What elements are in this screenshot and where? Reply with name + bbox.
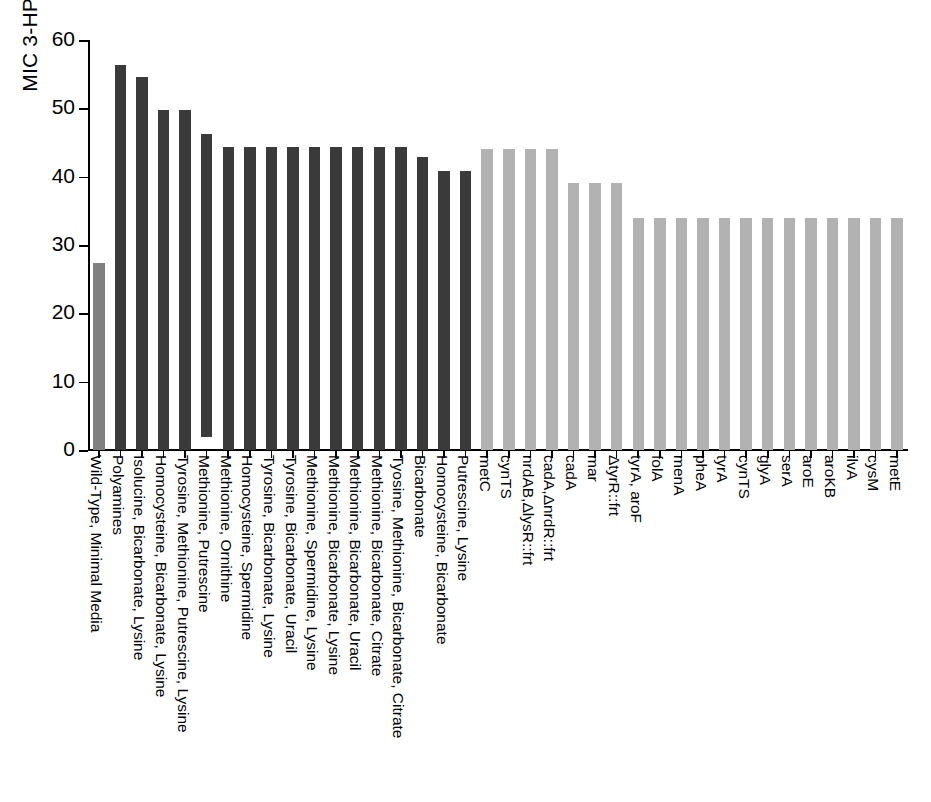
y-tick-label: 10 bbox=[52, 369, 75, 393]
bar bbox=[654, 218, 666, 450]
x-axis-label: tyrA, aroF bbox=[629, 455, 644, 523]
bar bbox=[525, 149, 537, 450]
x-axis-labels: Wild-Type, Minimal MediaPolyaminesIsoluc… bbox=[88, 455, 908, 795]
y-tick-mark bbox=[79, 450, 88, 452]
x-axis-label: Tyrosine, Bicarbonate, Uracil bbox=[284, 455, 299, 653]
y-tick-mark bbox=[79, 382, 88, 384]
bar bbox=[330, 147, 342, 450]
y-tick-0: 0 bbox=[10, 450, 88, 451]
y-tick-40: 40 bbox=[10, 177, 88, 178]
x-axis-label: cysM bbox=[866, 455, 881, 491]
y-tick-mark bbox=[79, 40, 88, 42]
bar bbox=[848, 218, 860, 450]
bar-chart-figure: MIC 3-HP (g/L) 0102030405060 Wild-Type, … bbox=[0, 0, 931, 802]
x-axis-label: Methionine, Ornithine bbox=[219, 455, 234, 602]
x-axis-label: Tyrosine, Bicarbonate, Lysine bbox=[262, 455, 277, 658]
bar bbox=[417, 157, 429, 450]
y-tick-50: 50 bbox=[10, 108, 88, 109]
x-axis-label: pheA bbox=[694, 455, 709, 491]
x-axis-label: ΔtyrR::frt bbox=[607, 455, 622, 516]
bar bbox=[244, 147, 256, 450]
bar bbox=[870, 218, 882, 450]
x-axis-label: tyrA bbox=[715, 455, 730, 483]
x-axis-label: serA bbox=[780, 455, 795, 487]
x-axis-label: mar bbox=[586, 455, 601, 482]
bar bbox=[438, 171, 450, 450]
bar bbox=[827, 218, 839, 450]
bar bbox=[136, 77, 148, 450]
plot-area: 0102030405060 bbox=[88, 40, 908, 450]
x-axis-label: Methionine, Spermidine, Lysine bbox=[305, 455, 320, 671]
x-axis-label: Methionine, Bicarbonate, Citrate bbox=[370, 455, 385, 676]
bar bbox=[719, 218, 731, 450]
bar bbox=[503, 149, 515, 450]
x-axis-label: cynTS bbox=[499, 455, 514, 499]
bar bbox=[460, 171, 472, 450]
x-axis-label: Methionine, Putrescine bbox=[197, 455, 212, 613]
bar bbox=[546, 149, 558, 450]
y-tick-10: 10 bbox=[10, 382, 88, 383]
x-axis-label: Homocysteine, Bicarbonate, Lysine bbox=[154, 455, 169, 697]
x-axis-label: Bicarbonate bbox=[413, 455, 428, 538]
bar bbox=[805, 218, 817, 450]
x-axis-label: aroKB bbox=[823, 455, 838, 498]
x-axis-label: aroE bbox=[801, 455, 816, 488]
x-axis-label: cynTS bbox=[737, 455, 752, 499]
bar-series bbox=[88, 40, 908, 450]
y-tick-label: 50 bbox=[52, 95, 75, 119]
bar bbox=[740, 218, 752, 450]
bar bbox=[784, 218, 796, 450]
y-tick-label: 40 bbox=[52, 164, 75, 188]
bar bbox=[115, 65, 127, 450]
x-axis-label: Tyrosine, Methionine, Putrescine, Lysine bbox=[176, 455, 191, 733]
bar bbox=[568, 183, 580, 450]
bar bbox=[309, 147, 321, 450]
bar bbox=[179, 110, 191, 450]
x-axis-label: menA bbox=[672, 455, 687, 496]
y-tick-mark bbox=[79, 313, 88, 315]
bar bbox=[266, 147, 278, 450]
y-tick-label: 60 bbox=[52, 27, 75, 51]
x-axis-label: cadA bbox=[564, 455, 579, 490]
x-axis-label: Wild-Type, Minimal Media bbox=[89, 455, 104, 632]
y-tick-30: 30 bbox=[10, 245, 88, 246]
bar bbox=[201, 134, 213, 437]
x-axis-label: Methionine, Bicarbonate, Lysine bbox=[327, 455, 342, 675]
x-axis-label: glyA bbox=[758, 455, 773, 485]
x-axis-label: Isolucine, Bicarbonate, Lysine bbox=[132, 455, 147, 660]
bar bbox=[676, 218, 688, 450]
bar bbox=[589, 183, 601, 450]
x-axis-label: folA bbox=[650, 455, 665, 482]
y-tick-mark bbox=[79, 245, 88, 247]
y-tick-60: 60 bbox=[10, 40, 88, 41]
x-axis-label: nrdAB,ΔlysR::frt bbox=[521, 455, 536, 565]
y-tick-label: 20 bbox=[52, 300, 75, 324]
bar bbox=[611, 183, 623, 450]
bar bbox=[697, 218, 709, 450]
bar bbox=[633, 218, 645, 450]
bar bbox=[395, 147, 407, 450]
x-axis-label: metC bbox=[478, 455, 493, 492]
x-axis-label: Polyamines bbox=[111, 455, 126, 535]
y-tick-label: 30 bbox=[52, 232, 75, 256]
y-tick-label: 0 bbox=[63, 437, 75, 461]
bar bbox=[223, 147, 235, 450]
y-axis-title: MIC 3-HP (g/L) bbox=[18, 0, 48, 150]
x-axis-label: metE bbox=[888, 455, 903, 491]
x-axis-label: Methionine, Bicarbonate, Uracil bbox=[348, 455, 363, 670]
bar bbox=[158, 110, 170, 450]
x-axis-label: Homocysteine, Spermidine bbox=[240, 455, 255, 640]
y-tick-mark bbox=[79, 108, 88, 110]
x-axis-label: Putrescine, Lysine bbox=[456, 455, 471, 581]
bar bbox=[481, 149, 493, 450]
x-axis-label: cadA,ΔnrdR::frt bbox=[542, 455, 557, 561]
x-axis-label: ilvA bbox=[845, 455, 860, 480]
x-axis-label: Tyosine, Methionine, Bicarbonate, Citrat… bbox=[391, 455, 406, 738]
bar bbox=[374, 147, 386, 450]
bar bbox=[891, 218, 903, 450]
bar bbox=[287, 147, 299, 450]
bar bbox=[762, 218, 774, 450]
bar bbox=[93, 263, 105, 450]
y-tick-mark bbox=[79, 177, 88, 179]
bar bbox=[352, 147, 364, 450]
